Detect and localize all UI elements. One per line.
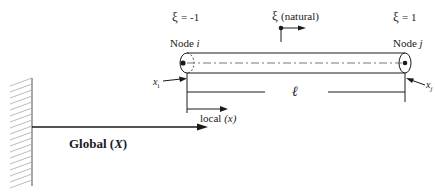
global-prefix: Global xyxy=(69,136,107,151)
length-label: ℓ xyxy=(292,85,298,99)
xi-symbol: ξ xyxy=(393,9,399,24)
local-axis-label: local (x) xyxy=(200,113,236,124)
natural-coordinate-arrow xyxy=(279,26,306,43)
global-var: X xyxy=(114,136,123,151)
xj-pointer-arrow xyxy=(406,78,425,85)
global-axis-label: Global (X) xyxy=(69,137,127,150)
coord-xi-label: xi xyxy=(153,77,159,90)
xi-symbol: ξ xyxy=(272,8,278,23)
fixed-wall-support xyxy=(10,78,32,188)
xi-natural-label: ξ (natural) xyxy=(272,9,319,22)
node-id: i xyxy=(197,37,200,49)
xi-symbol: ξ xyxy=(172,9,178,24)
xi-minus-one-label: ξ = -1 xyxy=(172,10,199,23)
node-prefix: Node xyxy=(170,37,194,49)
node-j-label: Node j xyxy=(393,38,423,49)
node-i-point xyxy=(180,60,185,65)
xi-plus-one-label: ξ = 1 xyxy=(393,10,417,23)
xi-left-value: = -1 xyxy=(181,11,199,23)
local-var: (x) xyxy=(224,112,236,124)
node-id: j xyxy=(420,37,423,49)
node-prefix: Node xyxy=(393,37,417,49)
global-paren-close: ) xyxy=(123,136,127,151)
xi-pointer-arrow xyxy=(163,77,187,83)
node-j-point xyxy=(403,61,408,66)
coord-sub: i xyxy=(157,82,159,90)
coord-sub: j xyxy=(430,85,432,93)
node-i-label: Node i xyxy=(170,38,200,49)
xi-right-value: = 1 xyxy=(402,11,416,23)
natural-label: (natural) xyxy=(281,10,319,22)
global-axis-arrow xyxy=(32,124,208,131)
beam-element xyxy=(180,53,411,73)
coord-xj-label: xj xyxy=(426,80,432,93)
element-diagram xyxy=(0,0,435,194)
local-prefix: local xyxy=(200,112,221,124)
